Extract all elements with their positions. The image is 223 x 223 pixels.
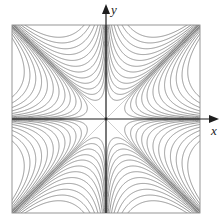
level-curve	[107, 0, 223, 60]
level-curve	[188, 0, 223, 114]
x-axis-label: x	[211, 124, 217, 137]
level-curve	[106, 0, 223, 94]
level-curve	[142, 0, 223, 119]
level-curve	[106, 149, 223, 223]
level-curve	[110, 195, 223, 223]
level-curve	[131, 0, 223, 119]
level-curves	[0, 0, 223, 223]
level-curve	[108, 0, 223, 55]
level-curve	[0, 172, 105, 223]
level-curve	[170, 0, 223, 117]
level-curve	[0, 0, 42, 117]
level-curve	[109, 0, 223, 49]
origin-point	[105, 118, 108, 121]
level-curve	[0, 183, 104, 223]
level-curve	[0, 0, 106, 94]
level-curve	[109, 189, 223, 223]
level-curve	[0, 178, 105, 223]
contour-diagram	[0, 0, 223, 223]
level-curve	[165, 0, 223, 118]
level-curve	[111, 0, 223, 37]
level-curve	[182, 0, 223, 115]
level-curve	[0, 0, 30, 115]
y-axis-arrow-icon	[102, 4, 110, 14]
x-axis-arrow-icon	[209, 115, 219, 123]
level-curve	[0, 0, 59, 118]
level-curve	[0, 120, 53, 223]
level-curve	[106, 160, 223, 223]
level-curve	[110, 0, 223, 43]
level-curve	[0, 0, 70, 119]
y-axis-label: y	[111, 3, 117, 16]
level-curve	[108, 183, 223, 223]
